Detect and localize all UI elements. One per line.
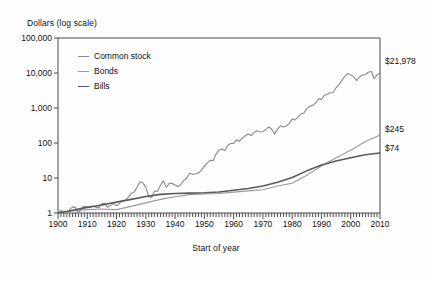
x-axis-tick-label: 1970 [248,219,278,229]
x-axis-tick-label: 1990 [306,219,336,229]
chart-legend: Common stockBondsBills [78,50,151,95]
x-axis-tick-label: 1940 [160,219,190,229]
chart-plot-area [0,0,432,281]
y-axis-tick-label: 1 [8,208,52,218]
legend-line-swatch [78,86,89,87]
legend-item-label: Common stock [94,50,151,62]
x-axis-title: Start of year [0,243,432,253]
y-axis-tick-label: 100 [8,138,52,148]
legend-item-label: Bills [94,80,110,92]
legend-line-swatch [78,71,89,72]
x-axis-tick-label: 1950 [189,219,219,229]
chart-figure: Dollars (log scale) 100,00010,0001,00010… [0,0,432,281]
x-axis-tick-label: 1930 [131,219,161,229]
x-axis-tick-label: 1910 [72,219,102,229]
y-axis-tick-label: 1,000 [8,103,52,113]
x-axis-tick-label: 1960 [219,219,249,229]
x-axis-tick-label: 1980 [277,219,307,229]
x-axis-tick-label: 2000 [336,219,366,229]
series-end-label: $74 [385,143,399,153]
legend-line-swatch [78,56,89,57]
legend-item-label: Bonds [94,65,118,77]
x-axis-tick-label: 2010 [365,219,395,229]
y-axis-tick-label: 10 [8,173,52,183]
series-end-label: $245 [385,124,404,134]
legend-item: Bills [78,80,151,92]
y-axis-tick-label: 10,000 [8,68,52,78]
series-end-label: $21,978 [385,56,416,66]
legend-item: Common stock [78,50,151,62]
x-axis-tick-label: 1900 [43,219,73,229]
x-axis-tick-label: 1920 [102,219,132,229]
y-axis-tick-label: 100,000 [8,33,52,43]
legend-item: Bonds [78,65,151,77]
